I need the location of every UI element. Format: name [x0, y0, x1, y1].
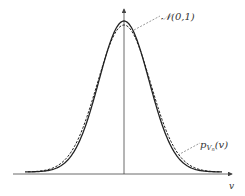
label-normal: 𝒩(0,1)	[161, 11, 195, 22]
density-chart: 𝒩(0,1) pVn(v) v	[0, 0, 245, 196]
label-xaxis: v	[229, 181, 234, 191]
normal-curve	[25, 21, 222, 172]
leader-pv	[178, 143, 200, 155]
leader-normal	[134, 16, 160, 30]
label-pv: pVn(v)	[200, 139, 228, 152]
